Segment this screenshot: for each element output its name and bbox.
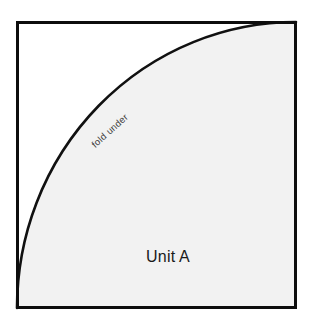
pattern-figure: fold under Unit A xyxy=(0,0,313,329)
pattern-diagram-canvas: fold under Unit A xyxy=(0,0,313,329)
unit-a-label: Unit A xyxy=(146,248,190,265)
